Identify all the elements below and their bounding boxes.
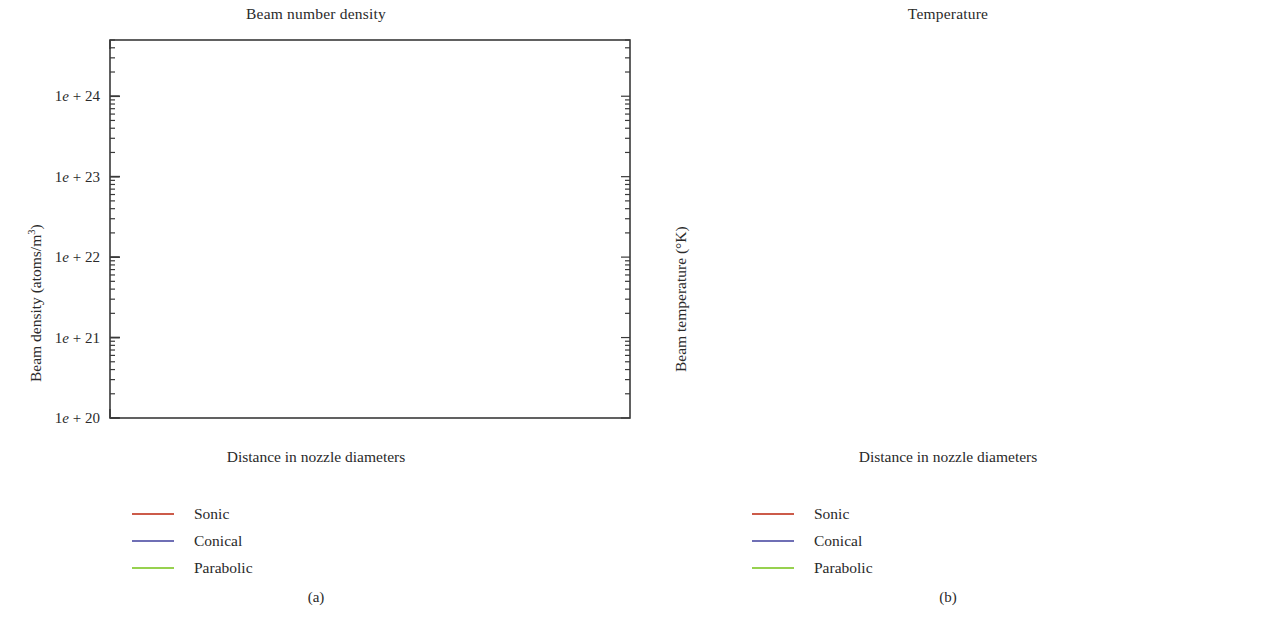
panel-b-plot bbox=[632, 0, 1264, 470]
panel-b-x-axis-label: Distance in nozzle diameters bbox=[632, 448, 1264, 466]
legend-swatch-parabolic bbox=[132, 567, 174, 569]
panel-a-legend: Sonic Conical Parabolic bbox=[132, 500, 253, 581]
legend-swatch-sonic bbox=[752, 513, 794, 515]
y-tick-label: 1e + 23 bbox=[55, 168, 100, 185]
panel-b: Temperature Beam temperature (°K) Distan… bbox=[632, 0, 1264, 620]
legend-label-sonic: Sonic bbox=[814, 506, 849, 522]
panel-a-x-axis-label: Distance in nozzle diameters bbox=[0, 448, 632, 466]
legend-swatch-parabolic bbox=[752, 567, 794, 569]
legend-item-conical: Conical bbox=[752, 527, 873, 554]
panel-a: Beam number density Beam density (atoms/… bbox=[0, 0, 632, 620]
legend-swatch-conical bbox=[752, 540, 794, 542]
legend-label-sonic: Sonic bbox=[194, 506, 229, 522]
y-tick-label: 1e + 22 bbox=[55, 249, 100, 266]
y-tick-label: 1e + 21 bbox=[55, 329, 100, 346]
legend-swatch-sonic bbox=[132, 513, 174, 515]
y-tick-label: 1e + 24 bbox=[55, 88, 100, 105]
panel-b-legend: Sonic Conical Parabolic bbox=[752, 500, 873, 581]
legend-item-conical: Conical bbox=[132, 527, 253, 554]
legend-swatch-conical bbox=[132, 540, 174, 542]
legend-label-conical: Conical bbox=[194, 533, 242, 549]
subfigure-caption-b: (b) bbox=[632, 589, 1264, 606]
legend-label-conical: Conical bbox=[814, 533, 862, 549]
legend-label-parabolic: Parabolic bbox=[814, 560, 873, 576]
figure-container: Beam number density Beam density (atoms/… bbox=[0, 0, 1264, 620]
panel-a-plot bbox=[0, 0, 632, 470]
legend-item-sonic: Sonic bbox=[132, 500, 253, 527]
legend-label-parabolic: Parabolic bbox=[194, 560, 253, 576]
legend-item-sonic: Sonic bbox=[752, 500, 873, 527]
legend-item-parabolic: Parabolic bbox=[132, 554, 253, 581]
legend-item-parabolic: Parabolic bbox=[752, 554, 873, 581]
subfigure-caption-a: (a) bbox=[0, 589, 632, 606]
y-tick-label: 1e + 20 bbox=[55, 410, 100, 427]
